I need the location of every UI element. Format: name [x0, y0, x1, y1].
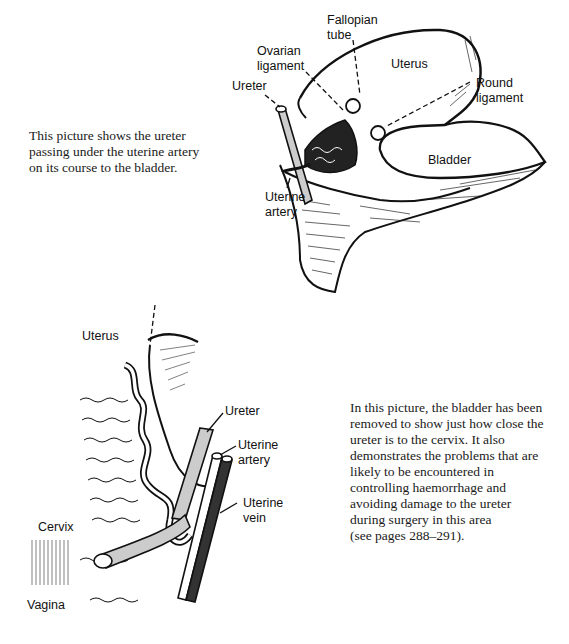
- label-vagina: Vagina: [27, 598, 65, 613]
- label-uterine-artery-fig2: Uterine artery: [238, 438, 278, 468]
- label-uterine-vein: Uterine vein: [243, 496, 283, 526]
- caption-line: In this picture, the bladder has been: [350, 400, 543, 416]
- caption-line: ureter is to the cervix. It also: [350, 432, 543, 448]
- caption-line: This picture shows the ureter: [29, 128, 199, 144]
- caption-line: likely to be encountered in: [350, 464, 543, 480]
- label-bladder: Bladder: [428, 153, 471, 168]
- label-cervix: Cervix: [38, 520, 73, 535]
- label-round-ligament: Round ligament: [476, 76, 523, 106]
- label-fallopian-tube: Fallopian tube: [327, 13, 378, 43]
- caption-line: avoiding damage to the ureter: [350, 496, 543, 512]
- caption-line: passing under the uterine artery: [29, 144, 199, 160]
- caption-line: controlling haemorrhage and: [350, 480, 543, 496]
- caption-line: during surgery in this area: [350, 512, 543, 528]
- figure-2-caption: In this picture, the bladder has been re…: [350, 400, 543, 544]
- figure-1-caption: This picture shows the ureter passing un…: [29, 128, 199, 176]
- label-ureter-fig2: Ureter: [225, 404, 260, 419]
- label-uterus-fig1: Uterus: [391, 57, 428, 72]
- label-ureter-fig1: Ureter: [232, 79, 267, 94]
- caption-line: on its course to the bladder.: [29, 160, 199, 176]
- caption-line: (see pages 288–291).: [350, 528, 543, 544]
- label-uterus-fig2: Uterus: [82, 329, 119, 344]
- label-uterine-artery-fig1: Uterine artery: [265, 190, 305, 220]
- caption-line: demonstrates the problems that are: [350, 448, 543, 464]
- caption-line: removed to show just how close the: [350, 416, 543, 432]
- label-ovarian-ligament: Ovarian ligament: [257, 44, 304, 74]
